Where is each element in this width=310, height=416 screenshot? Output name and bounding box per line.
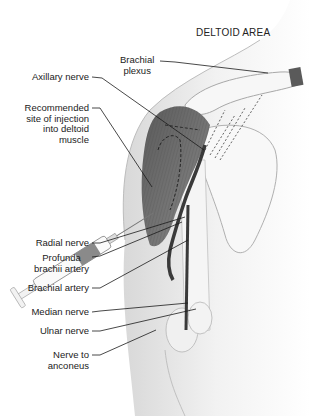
label-brachial-plexus: Brachial plexus: [120, 55, 154, 76]
label-radial-nerve: Radial nerve: [36, 238, 89, 249]
label-injection-site: Recommended site of injection into delto…: [25, 103, 89, 145]
label-axillary-nerve: Axillary nerve: [32, 72, 89, 83]
label-median-nerve: Median nerve: [31, 307, 89, 318]
label-profunda-brachii-artery: Profunda brachii artery: [34, 253, 89, 274]
label-nerve-to-anconeus: Nerve to anconeus: [48, 350, 89, 371]
label-brachial-artery: Brachial artery: [28, 283, 89, 294]
label-ulnar-nerve: Ulnar nerve: [40, 326, 89, 337]
diagram-title: DELTOID AREA: [196, 27, 270, 38]
deltoid-diagram: [0, 0, 310, 416]
